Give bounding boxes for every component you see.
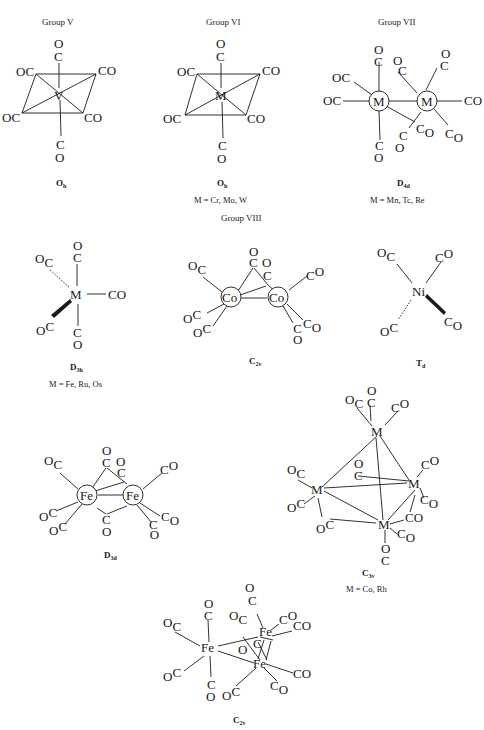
ligand-oc: OC	[39, 505, 57, 524]
ligand-co: CO	[444, 314, 462, 333]
ligand-oc: OC	[193, 321, 211, 340]
ligand-co: CO	[293, 666, 311, 681]
point-group: Oh	[56, 178, 67, 189]
ligand-c: C	[249, 255, 258, 270]
structure-m2-co10: Group VII M M O C OC OC C O O C O C CO C…	[323, 17, 482, 205]
metal-label: Co	[222, 290, 237, 305]
ligand-o: O	[238, 642, 247, 657]
ligand-oc: OC	[44, 453, 62, 472]
structure-v-co6: Group V V O C OC CO OC CO C O Oh	[2, 17, 116, 189]
ligand-o: O	[395, 140, 404, 155]
metal-label: Ni	[412, 284, 425, 299]
metal-label: M	[421, 94, 433, 109]
point-group: Td	[416, 358, 426, 369]
ligand-co: CO	[405, 510, 423, 525]
ligand-oc: OC	[222, 684, 240, 703]
ligand-oc: OC	[380, 320, 398, 339]
structure-fe2-co9: Fe Fe O C O C C O OC OC OC CO CO CO D3d	[39, 443, 179, 561]
ligand-co: CO	[416, 121, 434, 140]
ligand-oc: OC	[188, 258, 206, 277]
ligand-o: O	[374, 150, 383, 165]
ligand-oc: OC	[287, 462, 305, 481]
ligand-oc: OC	[287, 496, 305, 515]
ligand-co: CO	[262, 63, 280, 78]
ligand-o: O	[73, 337, 82, 352]
ligand-co: CO	[108, 287, 126, 302]
point-group: C2v	[233, 715, 246, 726]
point-group: D3h	[70, 362, 84, 373]
metal-label: M	[373, 94, 385, 109]
metal-label: M	[371, 424, 383, 439]
ligand-oc: OC	[323, 93, 341, 108]
ligand-c: C	[263, 268, 272, 283]
ligand-oc: OC	[2, 110, 20, 125]
metals-list: M = Co, Rh	[346, 584, 387, 594]
ligand-c: C	[204, 608, 213, 623]
structure-co2-co8: Co Co O C O C OC OC OC CO CO CO C2v	[183, 244, 324, 367]
group-label-viii: Group VIII	[221, 213, 262, 223]
metal-label: M	[215, 88, 227, 103]
metal-label: Co	[269, 290, 284, 305]
ligand-co: CO	[161, 509, 179, 528]
group-label: Group VII	[378, 17, 416, 27]
ligand-co: CO	[270, 678, 288, 697]
group-label: Group VI	[206, 17, 241, 27]
ligand-oc: OC	[229, 608, 247, 627]
ligand-c: C	[216, 49, 225, 64]
ligand-co: CO	[160, 458, 178, 477]
ligand-oc: OC	[163, 665, 181, 684]
metal-label: M	[408, 476, 420, 491]
ligand-c: C	[73, 250, 82, 265]
ligand-o: O	[217, 151, 226, 166]
ligand-co: CO	[306, 264, 324, 283]
ligand-co: CO	[397, 526, 415, 545]
ligand-co: CO	[303, 316, 321, 335]
ligand-oc: OC	[35, 251, 53, 270]
metal-carbonyl-figure: Group V V O C OC CO OC CO C O Oh Group V…	[0, 0, 484, 730]
ligand-c: C	[253, 636, 262, 651]
metal-label: V	[54, 88, 64, 103]
ligand-c: C	[102, 455, 111, 470]
ligand-co: CO	[149, 517, 159, 542]
metal-label: M	[311, 482, 323, 497]
ligand-c: C	[367, 395, 376, 410]
ligand-c: C	[381, 553, 390, 568]
structure-m4-co12: M M M M OC O C CO OC OC O C OC CO CO CO …	[287, 383, 439, 594]
ligand-co: CO	[98, 63, 116, 78]
ligand-oc: OC	[163, 111, 181, 126]
metals-list: M = Mn, Tc, Re	[370, 195, 425, 205]
ligand-o: O	[102, 524, 111, 539]
ligand-co: CO	[445, 126, 463, 145]
point-group: C3v	[362, 568, 375, 579]
ligand-co: CO	[421, 453, 439, 472]
ligand-oc: OC	[177, 64, 195, 79]
point-group: C2v	[249, 356, 262, 367]
metal-label: M	[70, 287, 82, 302]
ligand-o: O	[206, 689, 215, 704]
point-group: D3d	[104, 550, 118, 561]
structure-ni-co4: Ni OC CO OC CO Td	[377, 245, 462, 369]
group-label: Group V	[42, 17, 74, 27]
ligand-oc: OC	[36, 319, 54, 338]
metal-label: Fe	[126, 488, 139, 503]
ligand-c: C	[54, 49, 63, 64]
ligand-co: CO	[293, 618, 311, 633]
ligand-oc: OC	[49, 519, 67, 538]
ligand-c: C	[117, 465, 126, 480]
ligand-o: O	[55, 150, 64, 165]
ligand-co: CO	[435, 246, 453, 265]
structure-m-co5: M O C OC CO OC C O D3h M = Fe, Ru, Os	[35, 238, 126, 389]
ligand-c: C	[398, 63, 407, 78]
ligand-co: CO	[464, 93, 482, 108]
metal-label: Fe	[253, 656, 266, 671]
ligand-co: CO	[84, 110, 102, 125]
ligand-co: CO	[247, 111, 265, 126]
ligand-c: C	[248, 593, 257, 608]
metal-label: Fe	[201, 640, 214, 655]
structure-m-co6: Group VI M O C OC CO OC CO C O Oh M = Cr…	[163, 17, 280, 205]
ligand-co: CO	[293, 321, 302, 347]
metals-list: M = Fe, Ru, Os	[49, 379, 102, 389]
ligand-oc: OC	[163, 615, 181, 634]
metal-label: Fe	[80, 488, 93, 503]
ligand-c: C	[354, 468, 363, 483]
